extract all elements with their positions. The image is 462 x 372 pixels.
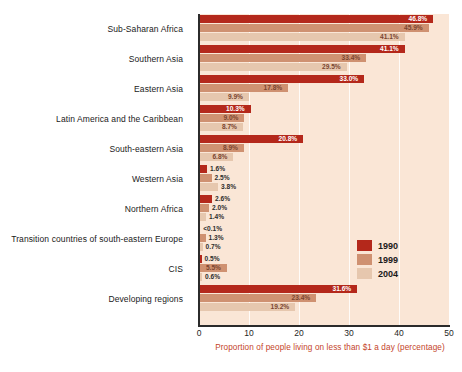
bar-row: 45.9% <box>199 24 449 32</box>
x-tick-label: 50 <box>444 328 453 338</box>
bar-row: 2.5% <box>199 174 449 182</box>
bar-row: <0.1% <box>199 225 449 233</box>
bar-row: 41.1% <box>199 45 449 53</box>
bar-row: 1.4% <box>199 213 449 221</box>
bar-row: 2.0% <box>199 204 449 212</box>
bar-group: 31.6%23.4%19.2% <box>199 284 449 314</box>
x-tick-label: 10 <box>244 328 253 338</box>
bar-value-label: 17.8% <box>264 84 283 92</box>
bar-row: 29.5% <box>199 63 449 71</box>
legend-swatch-icon <box>357 254 372 265</box>
x-tick-label: 30 <box>344 328 353 338</box>
bar-group: 2.6%2.0%1.4% <box>199 194 449 224</box>
bar-group: 33.0%17.8%9.9% <box>199 74 449 104</box>
legend-swatch-icon <box>357 268 372 279</box>
bar-1999 <box>199 204 209 212</box>
bar-value-label: 20.8% <box>279 135 298 143</box>
bar-1999 <box>199 234 206 242</box>
bar-row: 33.0% <box>199 75 449 83</box>
bar-value-label: 2.5% <box>215 174 230 182</box>
bar-group: 46.8%45.9%41.1% <box>199 14 449 44</box>
legend-item[interactable]: 1990 <box>357 240 398 251</box>
bar-row: 0.7% <box>199 243 449 251</box>
x-axis-ticks: 01020304050 <box>199 328 449 344</box>
bar-group: 20.8%8.9%6.8% <box>199 134 449 164</box>
bar-row: 17.8% <box>199 84 449 92</box>
bar-2004 <box>199 243 203 251</box>
bar-row: 0.5% <box>199 255 449 263</box>
bar-value-label: 19.2% <box>271 303 290 311</box>
legend-item[interactable]: 1999 <box>357 254 398 265</box>
bar-2004 <box>199 213 206 221</box>
bar-value-label: 45.9% <box>404 24 423 32</box>
plot-area: 46.8%45.9%41.1%41.1%33.4%29.5%33.0%17.8%… <box>199 14 449 326</box>
bar-value-label: 2.6% <box>215 195 230 203</box>
category-label: South-eastern Asia <box>0 134 190 164</box>
bar-value-label: <0.1% <box>203 225 222 233</box>
bar-row: 23.4% <box>199 294 449 302</box>
bar-row: 0.6% <box>199 273 449 281</box>
bar-row: 20.8% <box>199 135 449 143</box>
category-label: Latin America and the Caribbean <box>0 104 190 134</box>
bar-row: 33.4% <box>199 54 449 62</box>
x-axis-title: Proportion of people living on less than… <box>199 343 461 352</box>
bar-row: 6.8% <box>199 153 449 161</box>
bar-value-label: 2.0% <box>212 204 227 212</box>
category-label: Western Asia <box>0 164 190 194</box>
bar-row: 3.8% <box>199 183 449 191</box>
bar-value-label: 31.6% <box>333 285 352 293</box>
bar-value-label: 10.3% <box>226 105 245 113</box>
legend: 199019992004 <box>357 240 398 279</box>
bar-row: 5.5% <box>199 264 449 272</box>
bar-value-label: 6.8% <box>212 153 227 161</box>
category-labels: Sub-Saharan AfricaSouthern AsiaEastern A… <box>0 14 190 314</box>
bar-row: 1.6% <box>199 165 449 173</box>
bar-chart: Sub-Saharan AfricaSouthern AsiaEastern A… <box>0 0 462 372</box>
bar-1990 <box>199 165 207 173</box>
bar-value-label: 41.1% <box>380 33 399 41</box>
bar-value-label: 23.4% <box>292 294 311 302</box>
bar-row: 46.8% <box>199 15 449 23</box>
bar-row: 9.0% <box>199 114 449 122</box>
bar-value-label: 0.5% <box>205 255 220 263</box>
bar-group: <0.1%1.3%0.7% <box>199 224 449 254</box>
bar-groups: 46.8%45.9%41.1%41.1%33.4%29.5%33.0%17.8%… <box>199 14 449 314</box>
category-label: Southern Asia <box>0 44 190 74</box>
x-tick-label: 40 <box>394 328 403 338</box>
bar-value-label: 1.3% <box>209 234 224 242</box>
bar-value-label: 0.7% <box>206 243 221 251</box>
bar-1990 <box>199 195 212 203</box>
bar-group: 1.6%2.5%3.8% <box>199 164 449 194</box>
bar-value-label: 5.5% <box>206 264 221 272</box>
bar-row: 41.1% <box>199 33 449 41</box>
legend-label: 2004 <box>378 269 398 279</box>
legend-swatch-icon <box>357 240 372 251</box>
bar-row: 8.9% <box>199 144 449 152</box>
category-label: CIS <box>0 254 190 284</box>
bar-value-label: 1.4% <box>209 213 224 221</box>
gridline <box>449 14 450 326</box>
legend-item[interactable]: 2004 <box>357 268 398 279</box>
bar-value-label: 8.9% <box>223 144 238 152</box>
category-label: Sub-Saharan Africa <box>0 14 190 44</box>
bar-value-label: 33.4% <box>342 54 361 62</box>
bar-1999 <box>199 24 429 32</box>
bar-value-label: 0.6% <box>205 273 220 281</box>
bar-value-label: 9.9% <box>228 93 243 101</box>
category-label: Developing regions <box>0 284 190 314</box>
bar-group: 0.5%5.5%0.6% <box>199 254 449 284</box>
x-axis-line <box>198 325 450 327</box>
bar-row: 31.6% <box>199 285 449 293</box>
y-axis-line <box>198 14 200 326</box>
bar-row: 10.3% <box>199 105 449 113</box>
category-label: Northern Africa <box>0 194 190 224</box>
x-tick-label: 0 <box>197 328 202 338</box>
bar-group: 10.3%9.0%8.7% <box>199 104 449 134</box>
bar-value-label: 9.0% <box>223 114 238 122</box>
bar-value-label: 3.8% <box>221 183 236 191</box>
bar-2004 <box>199 33 405 41</box>
bar-row: 19.2% <box>199 303 449 311</box>
bar-value-label: 41.1% <box>380 45 399 53</box>
bar-row: 8.7% <box>199 123 449 131</box>
bar-value-label: 8.7% <box>222 123 237 131</box>
